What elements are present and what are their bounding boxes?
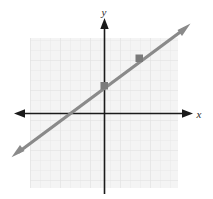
graph-figure: x y (0, 0, 213, 199)
x-axis-arrow-left (14, 109, 25, 117)
y-axis-arrow-up (100, 18, 108, 29)
point-y-intercept (101, 82, 109, 90)
line-arrow-lower-left (12, 145, 25, 157)
point-second (136, 55, 144, 63)
coordinate-plane: x y (0, 0, 213, 199)
y-axis-label: y (101, 6, 107, 18)
x-axis-label: x (196, 108, 202, 120)
x-axis-arrow-right (182, 109, 193, 117)
